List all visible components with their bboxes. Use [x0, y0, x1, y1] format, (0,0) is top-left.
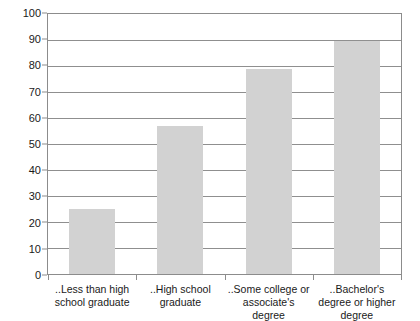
x-tick-mark-0 — [48, 275, 49, 280]
y-tick-label-10: 10 — [29, 243, 41, 254]
y-tick-label-30: 30 — [29, 191, 41, 202]
y-tick-label-60: 60 — [29, 112, 41, 123]
y-tick-label-50: 50 — [29, 139, 41, 150]
x-tick-mark-1 — [136, 275, 137, 280]
y-axis: 100 90 80 70 60 50 40 30 20 10 0 — [0, 13, 41, 275]
x-tick-mark-3 — [313, 275, 314, 280]
y-tick-label-90: 90 — [29, 34, 41, 45]
x-axis-label-2: ..High school graduate — [136, 283, 224, 309]
bar-slot-2 — [136, 14, 224, 274]
x-tick-mark-4 — [401, 275, 402, 280]
bar-slot-1 — [48, 14, 136, 274]
bar-less-than-high-school-graduate — [69, 209, 115, 274]
bar-chart: 100 90 80 70 60 50 40 30 20 10 0 — [0, 0, 420, 321]
y-tick-label-80: 80 — [29, 60, 41, 71]
x-tick-mark-2 — [225, 275, 226, 280]
bar-high-school-graduate — [157, 126, 203, 274]
bar-bachelors-degree-or-higher-degree — [334, 41, 380, 274]
x-axis-labels: ..Less than high school graduate ..High … — [48, 283, 401, 319]
y-tick-label-70: 70 — [29, 86, 41, 97]
bar-slot-3 — [225, 14, 313, 274]
bar-some-college-or-associates-degree — [246, 69, 292, 274]
bars-layer — [48, 14, 401, 274]
y-tick-label-40: 40 — [29, 165, 41, 176]
bar-slot-4 — [313, 14, 401, 274]
y-tick-label-20: 20 — [29, 217, 41, 228]
y-tick-label-100: 100 — [23, 8, 41, 19]
x-axis-label-3: ..Some college or associate's degree — [225, 283, 313, 321]
y-tick-label-0: 0 — [35, 270, 41, 281]
x-axis-label-4: ..Bachelor's degree or higher degree — [313, 283, 401, 321]
x-axis-label-1: ..Less than high school graduate — [48, 283, 136, 309]
